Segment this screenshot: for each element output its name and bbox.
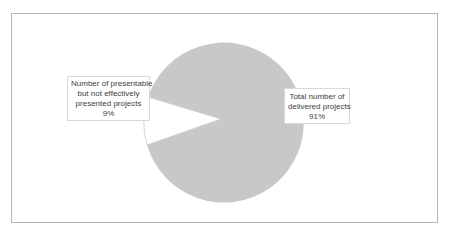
label-line: delivered projects <box>288 102 346 112</box>
label-percent: 91% <box>288 112 346 122</box>
label-line: but not effectively <box>71 89 146 99</box>
data-label-delivered-projects: Total number of delivered projects 91% <box>284 88 350 124</box>
label-line: presented projects <box>71 99 146 109</box>
label-percent: 9% <box>71 109 146 119</box>
label-line: Number of presentable <box>71 79 146 89</box>
data-label-presentable-not-presented: Number of presentable but not effectivel… <box>67 76 150 121</box>
label-line: Total number of <box>288 92 346 102</box>
